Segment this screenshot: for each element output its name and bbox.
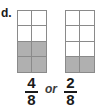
grid-cell-shaded	[32, 42, 46, 57]
fraction-two-eighths: 2 8	[64, 76, 77, 107]
fraction-denominator: 8	[27, 93, 35, 107]
fraction-expression: 4 8 or 2 8	[0, 76, 102, 109]
grid-cell-shaded	[32, 57, 46, 72]
grid-cell-shaded	[18, 42, 32, 57]
grid-cell-empty	[66, 42, 80, 57]
grid-cell-empty	[80, 42, 94, 57]
grid-cell-empty	[32, 11, 46, 26]
grid-cell-shaded	[80, 57, 94, 72]
fraction-numerator: 2	[66, 76, 74, 90]
worksheet-item: d. 4 8 or 2 8	[0, 0, 102, 109]
grid-cell-empty	[66, 11, 80, 26]
item-letter-label: d.	[1, 7, 11, 19]
grid-cell-empty	[66, 26, 80, 41]
conjunction-or: or	[45, 82, 57, 96]
grid-cell-empty	[18, 11, 32, 26]
grid-cell-empty	[32, 26, 46, 41]
grid-cell-shaded	[18, 57, 32, 72]
grid-cell-shaded	[66, 57, 80, 72]
grid-cell-empty	[18, 26, 32, 41]
fraction-model-right	[65, 10, 95, 73]
grid-cell-empty	[80, 26, 94, 41]
fraction-model-left	[17, 10, 47, 73]
fraction-denominator: 8	[66, 93, 74, 107]
grid-cell-empty	[80, 11, 94, 26]
fraction-four-eighths: 4 8	[25, 76, 38, 107]
fraction-numerator: 4	[27, 76, 35, 90]
